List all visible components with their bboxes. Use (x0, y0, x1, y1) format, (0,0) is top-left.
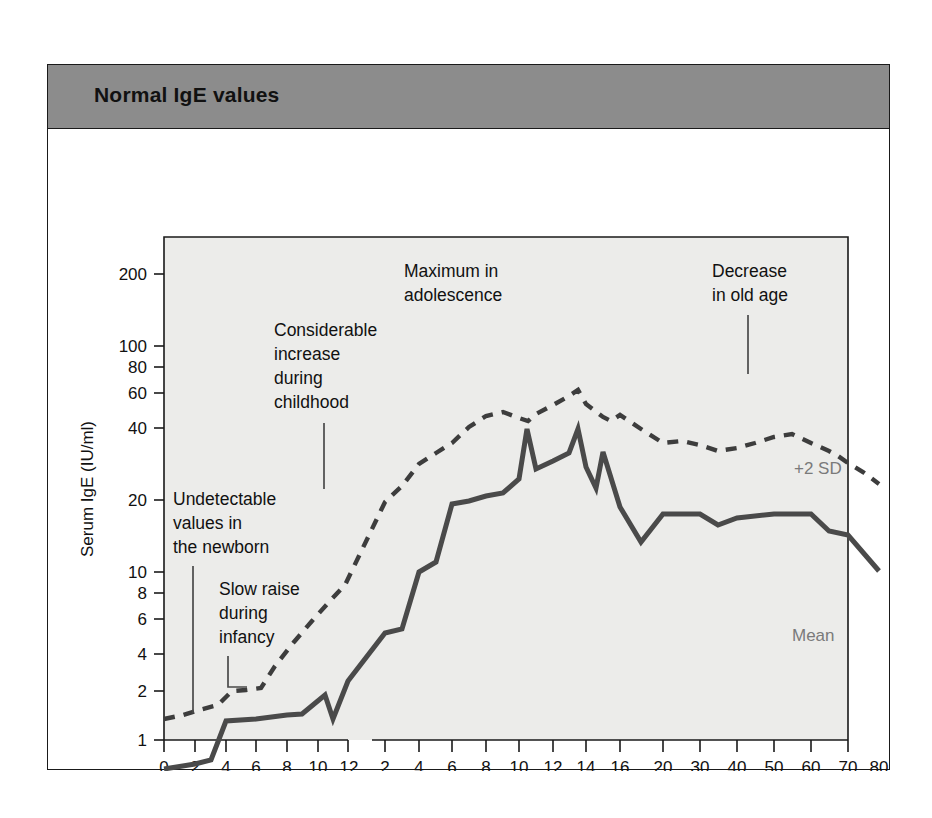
y-tick-80: 80 (128, 358, 147, 377)
y-tick-2: 2 (138, 682, 147, 701)
y-tick-8: 8 (138, 584, 147, 603)
chart-svg: 200 100 80 60 40 20 10 8 6 4 2 1 Serum I… (48, 129, 891, 771)
y-tick-200: 200 (119, 265, 147, 284)
series-label-2sd: +2 SD (794, 459, 842, 478)
x-tick-y-2: 2 (380, 758, 389, 771)
y-tick-100: 100 (119, 337, 147, 356)
annotation-slow-raise-line-3: infancy (219, 627, 275, 647)
annotation-considerable-line-1: Considerable (274, 320, 377, 340)
y-tick-20: 20 (128, 491, 147, 510)
annotation-maximum-line-2: adolescence (404, 285, 502, 305)
x-tick-m-6: 6 (251, 758, 260, 771)
x-tick-y-12: 12 (544, 758, 563, 771)
annotation-decrease-line-2: in old age (712, 285, 788, 305)
x-tick-y-80: 80 (870, 758, 889, 771)
annotation-undetectable-line-3: the newborn (173, 537, 269, 557)
y-tick-10: 10 (128, 563, 147, 582)
x-tick-labels-years: 2 4 6 8 10 12 14 16 20 30 40 50 60 70 80 (380, 758, 888, 771)
annotation-slow-raise-line-1: Slow raise (219, 579, 300, 599)
y-axis-ticks (154, 274, 164, 740)
card-header: Normal IgE values (48, 65, 889, 129)
annotation-considerable-line-3: during (274, 368, 323, 388)
y-tick-40: 40 (128, 419, 147, 438)
x-tick-m-8: 8 (282, 758, 291, 771)
chart-plot-area: 200 100 80 60 40 20 10 8 6 4 2 1 Serum I… (48, 129, 891, 771)
x-tick-m-4: 4 (221, 758, 230, 771)
annotation-maximum-line-1: Maximum in (404, 261, 498, 281)
x-axis-ticks-years (385, 740, 848, 752)
x-tick-y-16: 16 (611, 758, 630, 771)
annotation-slow-raise-line-2: during (219, 603, 268, 623)
x-tick-y-6: 6 (447, 758, 456, 771)
series-label-mean: Mean (792, 626, 835, 645)
x-tick-y-50: 50 (765, 758, 784, 771)
x-tick-m-10: 10 (309, 758, 328, 771)
page-title: Normal IgE values (94, 83, 279, 107)
annotation-undetectable-line-2: values in (173, 513, 242, 533)
annotation-considerable-line-2: increase (274, 344, 340, 364)
x-tick-y-14: 14 (577, 758, 596, 771)
x-tick-y-4: 4 (414, 758, 423, 771)
y-tick-60: 60 (128, 384, 147, 403)
x-tick-y-30: 30 (691, 758, 710, 771)
x-axis-ticks-months (164, 740, 348, 752)
x-tick-y-10: 10 (510, 758, 529, 771)
y-axis-tick-labels: 200 100 80 60 40 20 10 8 6 4 2 1 (119, 265, 147, 750)
annotation-decrease-line-1: Decrease (712, 261, 787, 281)
y-tick-6: 6 (138, 610, 147, 629)
annotation-undetectable-line-1: Undetectable (173, 489, 276, 509)
x-tick-y-8: 8 (481, 758, 490, 771)
x-tick-y-70: 70 (839, 758, 858, 771)
y-tick-4: 4 (138, 645, 147, 664)
annotation-considerable-line-4: childhood (274, 392, 349, 412)
x-tick-y-20: 20 (654, 758, 673, 771)
x-tick-m-12: 12 (340, 758, 359, 771)
y-axis-title: Serum IgE (IU/ml) (78, 421, 97, 557)
figure-card: Normal IgE values (47, 64, 890, 770)
y-tick-1: 1 (138, 731, 147, 750)
x-tick-y-40: 40 (728, 758, 747, 771)
x-tick-y-60: 60 (802, 758, 821, 771)
